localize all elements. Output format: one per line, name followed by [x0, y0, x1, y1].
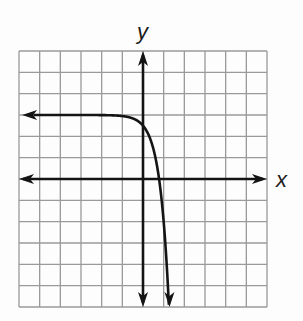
x-axis-label: x: [276, 167, 287, 193]
y-axis-label: y: [137, 19, 148, 45]
coordinate-plane: [0, 0, 303, 321]
axes: [19, 51, 267, 307]
function-curve: [22, 110, 174, 307]
